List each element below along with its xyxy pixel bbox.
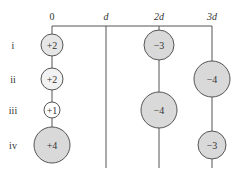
row-label: i [12, 40, 15, 51]
charge-label: +4 [47, 140, 58, 151]
diagram-canvas: 0d2d3diiiiiiiv+2+2+1+4−3−4−4−3 [0, 0, 242, 173]
charge-label: +1 [47, 105, 58, 116]
row-label: ii [10, 74, 16, 85]
charge-label: +2 [47, 74, 58, 85]
charge-label: −4 [154, 105, 165, 116]
row-label: iv [9, 140, 17, 151]
charge-label: −3 [207, 140, 218, 151]
axis-label: d [104, 11, 110, 22]
axis-label: 3d [206, 11, 218, 22]
charge-label: −3 [154, 40, 165, 51]
charge-diagram: 0d2d3diiiiiiiv+2+2+1+4−3−4−4−3 [0, 0, 242, 173]
axis-label: 0 [50, 11, 55, 22]
charge-label: +2 [47, 40, 58, 51]
axis-label: 2d [154, 11, 165, 22]
charge-label: −4 [207, 74, 218, 85]
row-label: iii [9, 105, 18, 116]
